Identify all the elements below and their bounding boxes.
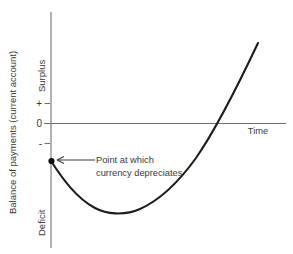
j-curve-chart: Balance of payments (current account) Su… (0, 0, 293, 254)
y-tick-label-minus: - (39, 138, 42, 149)
figure-container: Balance of payments (current account) Su… (0, 0, 293, 254)
surplus-label: Surplus (36, 60, 47, 92)
y-tick-label-zero: 0 (36, 118, 42, 129)
j-curve-path (51, 43, 258, 213)
depreciation-point-marker (48, 158, 54, 164)
x-axis-title: Time (248, 126, 268, 136)
annotation-line-2: currency depreciates (96, 168, 183, 178)
y-axis-title: Balance of payments (current account) (7, 51, 18, 214)
y-tick-label-plus: + (36, 98, 42, 109)
annotation-line-1: Point at which (96, 155, 154, 165)
deficit-label: Deficit (36, 209, 47, 236)
